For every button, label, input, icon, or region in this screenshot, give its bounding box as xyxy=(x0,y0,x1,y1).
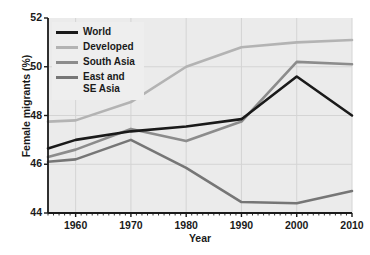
x-tick-label: 2000 xyxy=(277,219,317,231)
legend-color-swatch xyxy=(56,46,78,49)
legend-item: Developed xyxy=(56,41,141,54)
y-tick-label: 52 xyxy=(18,11,42,23)
y-tick-label: 44 xyxy=(18,206,42,218)
legend-color-swatch xyxy=(56,31,78,34)
x-tick-label: 1970 xyxy=(111,219,151,231)
legend-item: East and SE Asia xyxy=(56,71,141,94)
y-axis-title: Female migrants (%) xyxy=(20,36,32,176)
legend-color-swatch xyxy=(56,76,78,79)
legend-item: World xyxy=(56,26,141,39)
legend-item-label: East and SE Asia xyxy=(83,71,125,94)
x-tick-label: 1960 xyxy=(56,219,96,231)
x-tick-label: 1990 xyxy=(221,219,261,231)
legend-item: South Asia xyxy=(56,56,141,69)
legend-item-label: South Asia xyxy=(83,56,135,68)
legend-item-label: World xyxy=(83,26,111,38)
x-tick-label: 1980 xyxy=(166,219,206,231)
legend-item-label: Developed xyxy=(83,41,134,53)
chart-container: 4446485052 196019701980199020002010 Fema… xyxy=(0,0,370,255)
legend-color-swatch xyxy=(56,61,78,64)
x-tick-label: 2010 xyxy=(332,219,370,231)
x-axis-title: Year xyxy=(48,232,352,244)
chart-legend: WorldDevelopedSouth AsiaEast and SE Asia xyxy=(52,22,144,100)
